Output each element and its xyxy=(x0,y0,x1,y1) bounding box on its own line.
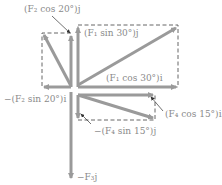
label-f4-cos: (F₄ cos 15°)i xyxy=(165,109,222,119)
label-f1-cos: (F₁ cos 30°)i xyxy=(106,73,163,83)
vector-diagram: (F₂ cos 20°)j (F₁ sin 30°)j (F₁ cos 30°)… xyxy=(0,0,222,185)
f2-vector xyxy=(44,35,71,86)
label-f3: −F₃j xyxy=(77,172,97,182)
label-f1-sin: (F₁ sin 30°)j xyxy=(84,28,139,38)
label-f2-sin: −(F₂ sin 20°)i xyxy=(4,94,66,104)
label-f2-cos: (F₂ cos 20°)j xyxy=(24,4,80,14)
f4-vector xyxy=(78,95,153,118)
label-f4-sin: −(F₄ sin 15°)j xyxy=(94,126,156,136)
